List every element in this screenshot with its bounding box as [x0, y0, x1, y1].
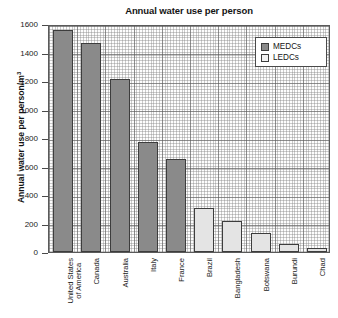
- x-axis-label-botswana: Botswana: [263, 258, 271, 291]
- legend-item-ledcs: LEDCs: [261, 52, 321, 63]
- x-axis-label-bangladesh: Bangladesh: [234, 258, 242, 298]
- y-axis-tick-label: 1200: [4, 78, 38, 86]
- bar-brazil: [194, 208, 214, 252]
- x-axis-label-line: Brazil: [205, 258, 214, 277]
- x-axis-label-chad: Chad: [319, 258, 327, 276]
- bar-chad: [307, 248, 327, 252]
- x-axis-label-line: France: [177, 258, 186, 282]
- chart-title: Annual water use per person: [48, 5, 330, 16]
- y-axis-tick-label: 1600: [4, 21, 38, 29]
- x-axis-label-line: Burundi: [290, 258, 299, 284]
- x-axis-label-line: Bangladesh: [233, 258, 242, 298]
- y-axis-tick-label: 400: [4, 192, 38, 200]
- legend-swatch-medcs-icon: [261, 43, 269, 51]
- legend-label-ledcs: LEDCs: [273, 53, 299, 62]
- y-axis-tick-label: 1400: [4, 50, 38, 58]
- x-axis-label-italy: Italy: [150, 258, 158, 272]
- x-axis-label-australia: Australia: [122, 258, 130, 288]
- x-axis-label-france: France: [178, 258, 186, 282]
- bar-australia: [110, 79, 130, 252]
- bar-burundi: [279, 244, 299, 252]
- legend-swatch-ledcs-icon: [261, 54, 269, 62]
- x-axis-label-line: Botswana: [262, 258, 271, 291]
- y-axis-tick-label: 800: [4, 135, 38, 143]
- x-axis-label-canada: Canada: [93, 258, 101, 285]
- bar-italy: [138, 142, 158, 252]
- x-axis-label-line: Canada: [92, 258, 101, 285]
- x-axis-label-brazil: Brazil: [206, 258, 214, 277]
- bar-bangladesh: [222, 221, 242, 252]
- x-axis-label-burundi: Burundi: [291, 258, 299, 284]
- y-axis-tick-label: 0: [4, 249, 38, 257]
- x-axis-label-line: Australia: [121, 258, 130, 288]
- bar-canada: [81, 43, 101, 252]
- bar-botswana: [251, 233, 271, 252]
- bar-france: [166, 159, 186, 252]
- chart-figure: Annual water use per person Annual water…: [0, 0, 338, 318]
- x-axis-label-united-states-of-america: United Statesof America: [67, 258, 84, 304]
- y-axis-title-exponent: 3: [16, 72, 22, 75]
- x-axis-label-line: Chad: [318, 258, 327, 276]
- y-axis-tick-label: 1000: [4, 107, 38, 115]
- y-axis-tick-label: 600: [4, 164, 38, 172]
- x-axis-label-line: of America: [76, 258, 84, 304]
- y-axis-tick-mark: [42, 253, 48, 254]
- legend-label-medcs: MEDCs: [273, 42, 301, 51]
- legend-item-medcs: MEDCs: [261, 41, 321, 52]
- bar-united-states-of-america: [53, 30, 73, 252]
- x-axis-label-line: Italy: [149, 258, 158, 272]
- y-axis-tick-label: 200: [4, 221, 38, 229]
- chart-legend: MEDCs LEDCs: [255, 37, 327, 67]
